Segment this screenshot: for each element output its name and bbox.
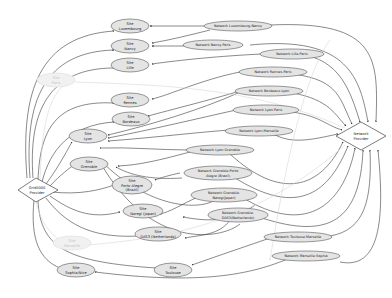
network-node-rennes-paris[interactable]: Network Rennes-Paris bbox=[239, 67, 307, 77]
site-node-porto-alegre[interactable]: Site Porto Alegre (Brazil) bbox=[112, 176, 152, 194]
site-label: Toulouse bbox=[164, 271, 181, 275]
network-node-marseille-sophia[interactable]: Network Marseille-Sophia bbox=[272, 251, 340, 261]
network-label: Network Marseille-Sophia bbox=[284, 254, 327, 258]
grid5000-provider-label-1: Grid5000 bbox=[29, 186, 46, 190]
site-label: Sophia/Nice bbox=[65, 271, 87, 275]
site-label: Porto Alegre bbox=[121, 184, 144, 188]
network-label: Network Bordeaux-Lyon bbox=[249, 89, 289, 93]
network-node-lyon-marseille[interactable]: Network Lyon-Marseille bbox=[225, 126, 293, 136]
network-node-grenoble-das3[interactable]: Network Grenoble- DAS3(Netherlands) bbox=[208, 208, 268, 222]
site-node-luxembourg[interactable]: Site Luxembourg bbox=[111, 19, 149, 33]
site-label: (Brazil) bbox=[126, 188, 139, 192]
site-label: Nancy bbox=[124, 47, 136, 51]
site-label: Paris bbox=[52, 81, 61, 85]
site-label: Bordeaux bbox=[122, 120, 140, 124]
site-label: Site bbox=[128, 115, 136, 119]
site-node-naregi[interactable]: Site Naregi (Japan) bbox=[123, 204, 163, 218]
network-label: DAS3(Netherlands) bbox=[222, 216, 255, 220]
network-label: Network Toulouse-Marseille bbox=[275, 235, 321, 239]
site-node-das3[interactable]: Site DAS3 (Netherlands) bbox=[135, 227, 181, 241]
network-node-lyon-grenoble[interactable]: Network Lyon-Grenoble bbox=[186, 145, 254, 155]
network-label: Network Lyon-Marseille bbox=[239, 129, 278, 133]
site-node-rennes[interactable]: Site Rennes bbox=[111, 93, 149, 107]
site-label: Site bbox=[127, 96, 135, 100]
site-label: Naregi (Japan) bbox=[130, 212, 156, 216]
site-label: Site bbox=[69, 239, 77, 243]
network-label: Network Grenoble-Porto bbox=[198, 169, 239, 173]
network-provider-label-2: Provider bbox=[354, 137, 369, 141]
site-label: DAS3 (Netherlands) bbox=[140, 235, 176, 239]
site-node-sophia[interactable]: Site Sophia/Nice bbox=[57, 263, 95, 277]
site-label: Site bbox=[170, 266, 178, 270]
network-node-nancy-paris[interactable]: Network Nancy-Paris bbox=[183, 40, 243, 50]
network-node-toulouse-marseille[interactable]: Network Toulouse-Marseille bbox=[264, 232, 332, 242]
network-provider-node[interactable]: Network Provider bbox=[336, 122, 386, 150]
network-label: Network Nancy-Paris bbox=[195, 43, 230, 47]
site-label: Site bbox=[86, 160, 94, 164]
network-node-grenoble-porto-alegre[interactable]: Network Grenoble-Porto Alegre (Brazil) bbox=[184, 166, 252, 180]
network-label: Alegre (Brazil) bbox=[206, 174, 231, 178]
network-node-bordeaux-lyon[interactable]: Network Bordeaux-Lyon bbox=[235, 86, 303, 96]
site-label: Site bbox=[73, 266, 81, 270]
site-label: Rennes bbox=[123, 101, 136, 105]
network-label: Network Lille-Paris bbox=[276, 52, 308, 56]
site-label: Site bbox=[53, 76, 61, 80]
site-node-nancy[interactable]: Site Nancy bbox=[111, 39, 149, 53]
site-label: Site bbox=[127, 42, 135, 46]
network-node-lille-paris[interactable]: Network Lille-Paris bbox=[260, 49, 324, 59]
site-node-bordeaux[interactable]: Site Bordeaux bbox=[112, 112, 150, 126]
network-label: Network Lyon-Paris bbox=[250, 108, 283, 112]
network-node-lux-nancy[interactable]: Network Luxembourg-Nancy bbox=[204, 21, 272, 31]
site-label: Site bbox=[129, 179, 137, 183]
grid5000-provider-label-2: Provider bbox=[30, 191, 45, 195]
site-node-lille[interactable]: Site Lille bbox=[111, 58, 149, 72]
dependency-graph: Grid5000 Provider Network Provider Site … bbox=[0, 0, 392, 298]
site-label: Site bbox=[140, 207, 148, 211]
site-label: Lille bbox=[126, 66, 134, 70]
grid5000-provider-node[interactable]: Grid5000 Provider bbox=[18, 178, 58, 202]
site-label: Site bbox=[127, 22, 135, 26]
site-label: Luxembourg bbox=[119, 27, 141, 31]
site-node-grenoble[interactable]: Site Grenoble bbox=[70, 157, 108, 171]
site-label: Lyon bbox=[84, 137, 92, 141]
site-node-paris[interactable]: Site Paris bbox=[37, 73, 75, 87]
site-label: Marseille bbox=[64, 244, 81, 248]
network-node-grenoble-naregi[interactable]: Network Grenoble- Naregi(Japan) bbox=[191, 188, 257, 202]
site-label: Site bbox=[127, 61, 135, 65]
site-node-marseille[interactable]: Site Marseille bbox=[53, 236, 91, 250]
site-label: Grenoble bbox=[81, 165, 98, 169]
network-label: Network Grenoble- bbox=[222, 211, 255, 215]
network-label: Network Grenoble- bbox=[208, 191, 241, 195]
site-label: Site bbox=[85, 132, 93, 136]
network-label: Network Rennes-Paris bbox=[255, 70, 292, 74]
site-node-lyon[interactable]: Site Lyon bbox=[69, 129, 107, 143]
network-provider-label-1: Network bbox=[353, 132, 369, 136]
site-label: Site bbox=[155, 230, 163, 234]
site-node-toulouse[interactable]: Site Toulouse bbox=[154, 263, 192, 277]
network-node-lyon-paris[interactable]: Network Lyon-Paris bbox=[233, 105, 299, 115]
network-label: Network Luxembourg-Nancy bbox=[214, 24, 262, 28]
network-label: Network Lyon-Grenoble bbox=[200, 148, 240, 152]
network-label: Naregi(Japan) bbox=[212, 196, 236, 200]
